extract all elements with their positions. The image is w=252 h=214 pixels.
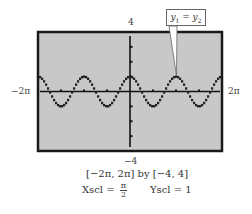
curve-point — [189, 95, 191, 97]
curve-point — [111, 102, 113, 104]
curve-point — [211, 87, 213, 89]
curve-point — [197, 105, 199, 107]
curve-point — [85, 76, 87, 78]
curve-point — [181, 80, 183, 82]
curve-point — [167, 83, 169, 85]
curve-point — [193, 102, 195, 104]
curve-point — [177, 76, 179, 78]
curve-point — [71, 91, 73, 93]
curve-point — [153, 105, 155, 107]
curve-point — [69, 95, 71, 97]
curve-point — [165, 87, 167, 89]
callout-sub2: 2 — [198, 17, 202, 24]
curve-point — [87, 78, 89, 80]
x-tick — [60, 90, 62, 92]
curve-point — [191, 99, 193, 101]
x-tick — [175, 90, 177, 92]
curve-point — [199, 105, 201, 107]
curve-point — [123, 80, 125, 82]
curve-point — [141, 91, 143, 93]
curve-point — [67, 99, 69, 101]
curve-point — [121, 83, 123, 85]
curve-point — [127, 76, 129, 78]
window-caption: [−2π, 2π] by [−4, 4] — [86, 168, 188, 179]
curve-point — [39, 76, 41, 78]
curve-point — [81, 76, 83, 78]
curve-point — [131, 76, 133, 78]
y-max-label: 4 — [128, 17, 134, 27]
curve-point — [217, 78, 219, 80]
curve-point — [95, 91, 97, 93]
y-tick — [130, 105, 133, 107]
curve-point — [157, 102, 159, 104]
x-min-label: −2π — [11, 86, 30, 96]
curve-point — [43, 80, 45, 82]
curve-point — [89, 80, 91, 82]
x-tick — [152, 90, 154, 92]
xscl-denominator: 2 — [120, 191, 127, 199]
callout-eq: = y — [179, 12, 197, 22]
curve-point — [219, 76, 221, 78]
intersection-callout: y1 = y2 — [166, 9, 206, 26]
curve-point — [133, 78, 135, 80]
curve-point — [115, 95, 117, 97]
xscl-fraction: π2 — [120, 182, 127, 199]
x-tick — [83, 90, 85, 92]
curve-point — [97, 95, 99, 97]
x-tick — [221, 90, 223, 92]
x-tick — [37, 90, 39, 92]
curve-point — [49, 91, 51, 93]
y-tick — [130, 31, 133, 33]
calculator-screen — [37, 26, 223, 152]
curve-point — [105, 105, 107, 107]
curve-point — [55, 102, 57, 104]
curve-point — [117, 91, 119, 93]
curve-point — [73, 87, 75, 89]
y-tick — [130, 135, 133, 137]
curve-point — [151, 105, 153, 107]
curve-point — [93, 87, 95, 89]
curve-point — [161, 95, 163, 97]
xscl-caption: Xscl = π2 — [82, 182, 127, 199]
curve-point — [47, 87, 49, 89]
curve-point — [77, 80, 79, 82]
curve-point — [51, 95, 53, 97]
curve-point — [113, 99, 115, 101]
curve-point — [65, 102, 67, 104]
curve-point — [195, 104, 197, 106]
curve-point — [137, 83, 139, 85]
x-max-label: 2π — [228, 86, 240, 96]
curve-point — [61, 105, 63, 107]
curve-point — [173, 76, 175, 78]
curve-point — [83, 75, 85, 77]
curve-point — [107, 105, 109, 107]
curve-point — [145, 99, 147, 101]
y-tick — [130, 150, 133, 152]
curve-point — [125, 78, 127, 80]
curve-point — [57, 104, 59, 106]
curve-point — [183, 83, 185, 85]
yscl-caption: Yscl = 1 — [150, 184, 192, 195]
curve-point — [109, 104, 111, 106]
curve-point — [155, 104, 157, 106]
curve-point — [119, 87, 121, 89]
curve-point — [45, 83, 47, 85]
curve-point — [175, 75, 177, 77]
curve-point — [149, 104, 151, 106]
curve-point — [135, 80, 137, 82]
curve-point — [187, 91, 189, 93]
curve-point — [129, 75, 131, 77]
curve-point — [171, 78, 173, 80]
curve-point — [101, 102, 103, 104]
curve-point — [143, 95, 145, 97]
curve-point — [205, 99, 207, 101]
y-min-label: −4 — [124, 156, 137, 166]
curve-point — [203, 102, 205, 104]
curve-point — [75, 83, 77, 85]
curve-point — [147, 102, 149, 104]
curve-point — [99, 99, 101, 101]
curve-point — [215, 80, 217, 82]
curve-point — [159, 99, 161, 101]
curve-point — [213, 83, 215, 85]
x-tick — [198, 90, 200, 92]
